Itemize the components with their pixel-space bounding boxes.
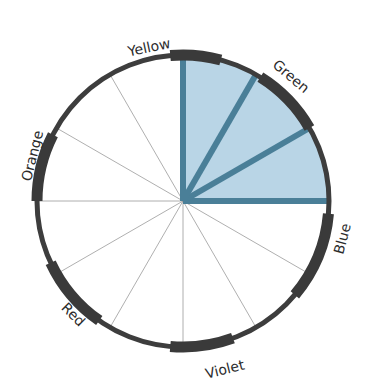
spoke-line xyxy=(110,201,183,327)
spoke-line xyxy=(183,201,256,327)
label-blue: Blue xyxy=(330,222,353,256)
color-band-arc xyxy=(170,338,233,347)
color-band-arc xyxy=(295,214,329,295)
color-band-arc xyxy=(170,55,221,60)
spoke-line xyxy=(183,201,309,274)
color-wheel-diagram: Yellow Green Blue Violet Red Orange xyxy=(0,0,368,392)
label-violet: Violet xyxy=(204,356,247,381)
spoke-line xyxy=(57,128,183,201)
spoke-line xyxy=(110,75,183,201)
spoke-line xyxy=(57,201,183,274)
